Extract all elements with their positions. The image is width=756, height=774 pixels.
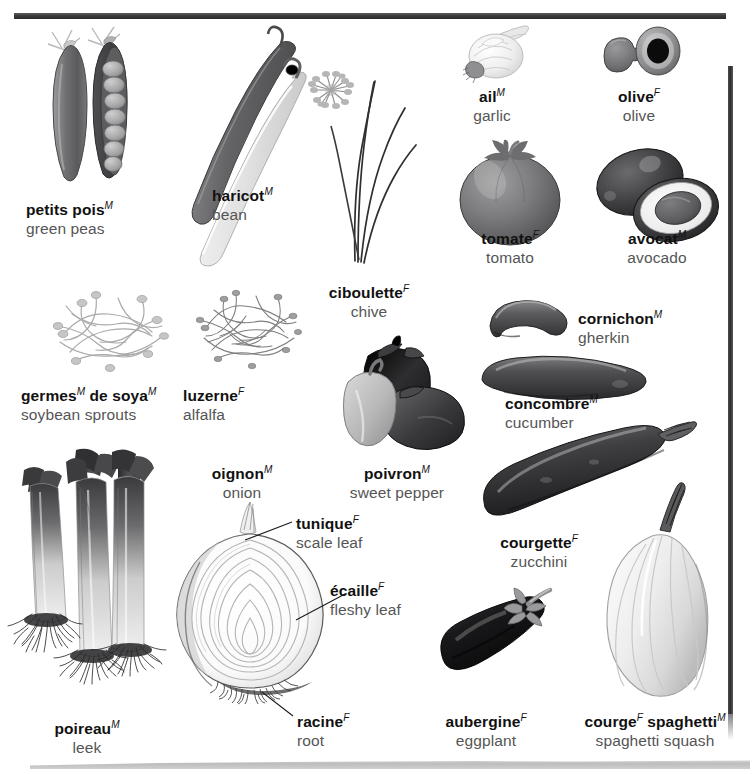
label-en-text: eggplant bbox=[445, 731, 526, 750]
label-fr-text-2: spaghetti bbox=[647, 713, 717, 730]
label-en-text: sweet pepper bbox=[350, 483, 444, 502]
callout-fr-text: racine bbox=[297, 713, 343, 730]
leeks-illustration bbox=[6, 448, 174, 698]
gender-marker-2: M bbox=[717, 712, 725, 723]
gender-marker: F bbox=[378, 581, 384, 592]
label-avocat: avocatM avocado bbox=[627, 226, 686, 267]
callout-tunique: tuniqueF scale leaf bbox=[296, 511, 362, 552]
label-germes-de-soya: germesM de soyaM soybean sprouts bbox=[21, 383, 156, 424]
gender-marker: M bbox=[77, 386, 85, 397]
label-fr-text: avocat bbox=[628, 230, 678, 247]
label-en-text: zucchini bbox=[500, 552, 578, 571]
callout-en-text: fleshy leaf bbox=[330, 600, 401, 619]
label-fr-text: olive bbox=[618, 88, 654, 105]
label-en-text: bean bbox=[212, 205, 273, 224]
gender-marker: M bbox=[589, 394, 597, 405]
gender-marker: M bbox=[497, 87, 505, 98]
gender-marker: M bbox=[105, 200, 113, 211]
label-ail: ailM garlic bbox=[473, 84, 511, 125]
label-concombre: concombreM cucumber bbox=[505, 391, 598, 432]
label-poivron: poivronM sweet pepper bbox=[350, 461, 444, 502]
label-aubergine: aubergineF eggplant bbox=[445, 709, 526, 750]
label-poireau: poireauM leek bbox=[54, 716, 119, 757]
label-en-text: tomato bbox=[481, 248, 539, 267]
label-courgette: courgetteF zucchini bbox=[500, 530, 578, 571]
label-fr-text: haricot bbox=[212, 187, 264, 204]
label-fr-text: courge bbox=[585, 713, 637, 730]
gender-marker: M bbox=[678, 229, 686, 240]
green-pea-pods-illustration bbox=[40, 22, 170, 192]
label-en-text: gherkin bbox=[578, 328, 662, 347]
label-courge-spaghetti: courgeF spaghettiM spaghetti squash bbox=[585, 709, 726, 750]
gender-marker: M bbox=[654, 309, 662, 320]
olives-illustration bbox=[592, 24, 688, 84]
label-fr-text-2: de soya bbox=[90, 387, 148, 404]
gender-marker: F bbox=[654, 87, 660, 98]
gender-marker: F bbox=[403, 283, 409, 294]
callout-ecaille: écailleF fleshy leaf bbox=[330, 578, 401, 619]
gender-marker: F bbox=[520, 712, 526, 723]
label-fr-text: ail bbox=[479, 88, 497, 105]
gender-marker: M bbox=[264, 464, 272, 475]
label-en-text: green peas bbox=[26, 219, 113, 238]
label-fr-text: tomate bbox=[481, 230, 532, 247]
label-en-text: leek bbox=[54, 738, 119, 757]
label-en-text: spaghetti squash bbox=[585, 731, 726, 750]
label-luzerne: luzerneF alfalfa bbox=[183, 383, 244, 424]
label-fr-text: cornichon bbox=[578, 310, 654, 327]
label-fr-text: courgette bbox=[500, 534, 572, 551]
label-en-text: garlic bbox=[473, 106, 511, 125]
gender-marker: F bbox=[238, 386, 244, 397]
gender-marker: F bbox=[533, 229, 539, 240]
gender-marker: M bbox=[264, 186, 272, 197]
label-en-text: soybean sprouts bbox=[21, 405, 156, 424]
spaghetti-squash-illustration bbox=[578, 478, 728, 698]
label-fr-text: poivron bbox=[364, 465, 422, 482]
label-en-text: cucumber bbox=[505, 413, 598, 432]
alfalfa-sprouts-illustration bbox=[196, 290, 304, 370]
label-fr-text: oignon bbox=[212, 465, 264, 482]
top-rule bbox=[14, 13, 726, 19]
gender-marker: F bbox=[343, 712, 349, 723]
label-en-text: avocado bbox=[627, 248, 686, 267]
label-en-text: olive bbox=[618, 106, 660, 125]
label-haricot: haricotM bean bbox=[212, 183, 273, 224]
label-en-text: onion bbox=[212, 483, 273, 502]
soybean-sprouts-illustration bbox=[52, 290, 172, 372]
callout-racine: racineF root bbox=[297, 709, 349, 750]
label-fr-text: petits pois bbox=[26, 201, 105, 218]
label-fr-text: aubergine bbox=[445, 713, 520, 730]
gender-marker: F bbox=[353, 514, 359, 525]
label-petits-pois: petits poisM green peas bbox=[26, 197, 113, 238]
gender-marker: F bbox=[572, 533, 578, 544]
gherkin-illustration bbox=[480, 296, 576, 348]
right-rule bbox=[728, 66, 733, 714]
label-ciboulette: cibouletteF chive bbox=[329, 280, 409, 321]
callout-fr-text: écaille bbox=[330, 582, 378, 599]
sweet-peppers-illustration bbox=[326, 330, 476, 455]
eggplant-illustration bbox=[430, 590, 570, 700]
label-fr-text: luzerne bbox=[183, 387, 238, 404]
callout-en-text: scale leaf bbox=[296, 533, 362, 552]
label-fr-text: concombre bbox=[505, 395, 589, 412]
garlic-bulb-illustration bbox=[456, 22, 542, 84]
label-cornichon: cornichonM gherkin bbox=[578, 306, 662, 347]
label-fr-text: ciboulette bbox=[329, 284, 403, 301]
gender-marker: F bbox=[637, 712, 643, 723]
label-oignon: oignonM onion bbox=[212, 461, 273, 502]
callout-fr-text: tunique bbox=[296, 515, 353, 532]
label-olive: oliveF olive bbox=[618, 84, 660, 125]
label-fr-text: poireau bbox=[54, 720, 111, 737]
gender-marker: M bbox=[111, 719, 119, 730]
callout-en-text: root bbox=[297, 731, 349, 750]
label-en-text: chive bbox=[329, 302, 409, 321]
label-en-text: alfalfa bbox=[183, 405, 244, 424]
bean-pods-illustration bbox=[168, 26, 308, 266]
label-tomate: tomateF tomato bbox=[481, 226, 539, 267]
gender-marker: M bbox=[422, 464, 430, 475]
chive-plant-illustration bbox=[295, 26, 425, 271]
dictionary-plate: petits poisM green peas haricotM bean ci… bbox=[0, 0, 756, 774]
bottom-rule bbox=[30, 760, 750, 769]
gender-marker-2: M bbox=[148, 386, 156, 397]
label-fr-text: germes bbox=[21, 387, 77, 404]
